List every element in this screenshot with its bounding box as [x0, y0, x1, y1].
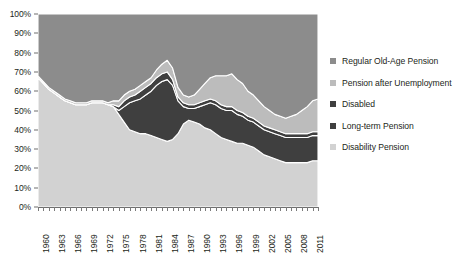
x-axis-tick-mark: [280, 207, 281, 211]
x-axis-tick-mark: [65, 207, 66, 211]
legend: Regular Old-Age PensionPension after Une…: [330, 56, 468, 164]
x-axis-tick-label: 2005: [284, 234, 293, 253]
x-axis-tick-mark: [237, 207, 238, 211]
legend-item-label: Regular Old-Age Pension: [342, 56, 438, 66]
y-axis-tick-label: 80%: [14, 48, 31, 57]
y-axis-tick-label: 10%: [14, 183, 31, 192]
x-axis-tick-mark: [275, 207, 276, 211]
x-axis-tick-mark: [76, 207, 77, 211]
x-axis-tick-mark: [210, 207, 211, 211]
figure-caption: [0, 254, 330, 264]
y-axis-tick-label: 60%: [14, 87, 31, 96]
x-axis-tick-mark: [130, 207, 131, 211]
x-axis-tick-mark: [140, 207, 141, 211]
x-axis-tick-label: 2008: [300, 234, 309, 253]
x-axis-tick-label: 1996: [235, 234, 244, 253]
chart-canvas: 100%90%80%70%60%50%40%30%20%10%0% 196019…: [0, 0, 330, 264]
stacked-area-series: [38, 14, 318, 207]
legend-item-label: Disabled: [342, 99, 375, 109]
x-axis-tick-mark: [173, 207, 174, 211]
x-axis-tick-mark: [54, 207, 55, 211]
x-axis-tick-label: 1969: [90, 234, 99, 253]
x-axis-tick-mark: [86, 207, 87, 211]
x-axis-tick-mark: [248, 207, 249, 211]
legend-swatch-icon: [330, 80, 336, 86]
x-axis-tick-mark: [178, 207, 179, 211]
legend-swatch-icon: [330, 144, 336, 150]
x-axis-tick-mark: [226, 207, 227, 211]
x-axis-tick-mark: [264, 207, 265, 211]
x-axis-tick-mark: [167, 207, 168, 211]
y-axis-tick-label: 0%: [19, 203, 31, 212]
x-axis-tick-mark: [113, 207, 114, 211]
x-axis-tick-mark: [124, 207, 125, 211]
legend-item[interactable]: Disabled: [330, 99, 468, 109]
x-axis-tick-mark: [253, 207, 254, 211]
x-axis-tick-mark: [146, 207, 147, 211]
x-axis-tick-mark: [307, 207, 308, 211]
x-axis-tick-mark: [194, 207, 195, 211]
legend-item[interactable]: Long-term Pension: [330, 121, 468, 131]
x-axis-tick-mark: [81, 207, 82, 211]
x-axis-tick-mark: [162, 207, 163, 211]
x-axis-tick-mark: [200, 207, 201, 211]
x-axis-tick-mark: [232, 207, 233, 211]
x-axis-tick-mark: [318, 207, 319, 211]
x-axis-tick-label: 1993: [219, 234, 228, 253]
chart-figure: 100%90%80%70%60%50%40%30%20%10%0% 196019…: [0, 0, 468, 264]
x-axis-tick-label: 1978: [139, 234, 148, 253]
x-axis-tick-mark: [156, 207, 157, 211]
legend-swatch-icon: [330, 58, 336, 64]
x-axis-tick-mark: [92, 207, 93, 211]
x-axis-tick-label: 1987: [187, 234, 196, 253]
x-axis-tick-label: 2011: [316, 235, 325, 253]
y-axis-tick-label: 40%: [14, 125, 31, 134]
x-axis-tick-mark: [286, 207, 287, 211]
x-axis-tick-mark: [291, 207, 292, 211]
x-axis-tick-label: 1975: [122, 234, 131, 253]
x-axis-tick-mark: [205, 207, 206, 211]
x-axis-tick-label: 1999: [252, 234, 261, 253]
plot-area: [38, 14, 318, 207]
x-axis-tick-mark: [216, 207, 217, 211]
y-axis-tick-label: 90%: [14, 29, 31, 38]
legend-swatch-icon: [330, 101, 336, 107]
x-axis-tick-mark: [313, 207, 314, 211]
legend-item[interactable]: Pension after Unemployment: [330, 78, 468, 88]
legend-item[interactable]: Disability Pension: [330, 142, 468, 152]
y-axis-tick-label: 50%: [14, 106, 31, 115]
x-axis-tick-mark: [38, 207, 39, 211]
legend-item[interactable]: Regular Old-Age Pension: [330, 56, 468, 66]
y-axis: 100%90%80%70%60%50%40%30%20%10%0%: [0, 0, 38, 207]
x-axis-tick-mark: [259, 207, 260, 211]
x-axis-tick-mark: [97, 207, 98, 211]
legend-swatch-icon: [330, 123, 336, 129]
y-axis-tick-label: 100%: [10, 10, 31, 19]
x-axis-tick-mark: [43, 207, 44, 211]
y-axis-tick-label: 30%: [14, 145, 31, 154]
x-axis-tick-mark: [49, 207, 50, 211]
x-axis-tick-mark: [108, 207, 109, 211]
x-axis-tick-label: 1972: [106, 234, 115, 253]
x-axis-tick-mark: [243, 207, 244, 211]
x-axis-tick-mark: [151, 207, 152, 211]
x-axis-tick-mark: [119, 207, 120, 211]
x-axis-tick-label: 1960: [42, 234, 51, 253]
x-axis-tick-mark: [189, 207, 190, 211]
x-axis-tick-mark: [270, 207, 271, 211]
legend-item-label: Pension after Unemployment: [342, 78, 452, 88]
legend-item-label: Long-term Pension: [342, 121, 414, 131]
x-axis-tick-label: 1984: [171, 234, 180, 253]
x-axis-tick-mark: [70, 207, 71, 211]
x-axis-tick-label: 1990: [203, 234, 212, 253]
x-axis-tick-mark: [296, 207, 297, 211]
x-axis-tick-mark: [135, 207, 136, 211]
x-axis-tick-mark: [103, 207, 104, 211]
y-axis-tick-label: 20%: [14, 164, 31, 173]
x-axis-tick-mark: [60, 207, 61, 211]
x-axis-tick-label: 1963: [58, 234, 67, 253]
y-axis-tick-label: 70%: [14, 67, 31, 76]
legend-item-label: Disability Pension: [342, 142, 409, 152]
x-axis-tick-label: 1981: [155, 234, 164, 253]
x-axis-tick-mark: [221, 207, 222, 211]
